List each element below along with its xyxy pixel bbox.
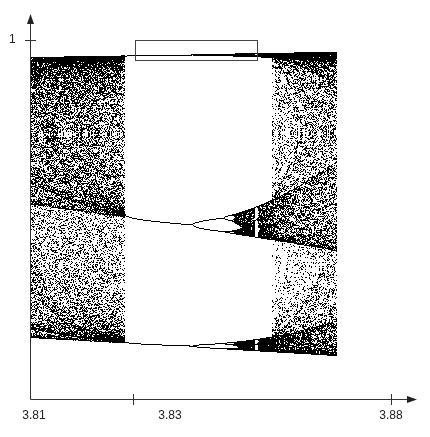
x-tick-label-3.83: 3.83 [158,408,181,422]
x-tick-label-3.88: 3.88 [379,408,402,422]
y-tick-label-1: 1 [9,32,16,46]
bifurcation-plot [0,0,430,437]
x-tick-label-3.81: 3.81 [22,408,45,422]
